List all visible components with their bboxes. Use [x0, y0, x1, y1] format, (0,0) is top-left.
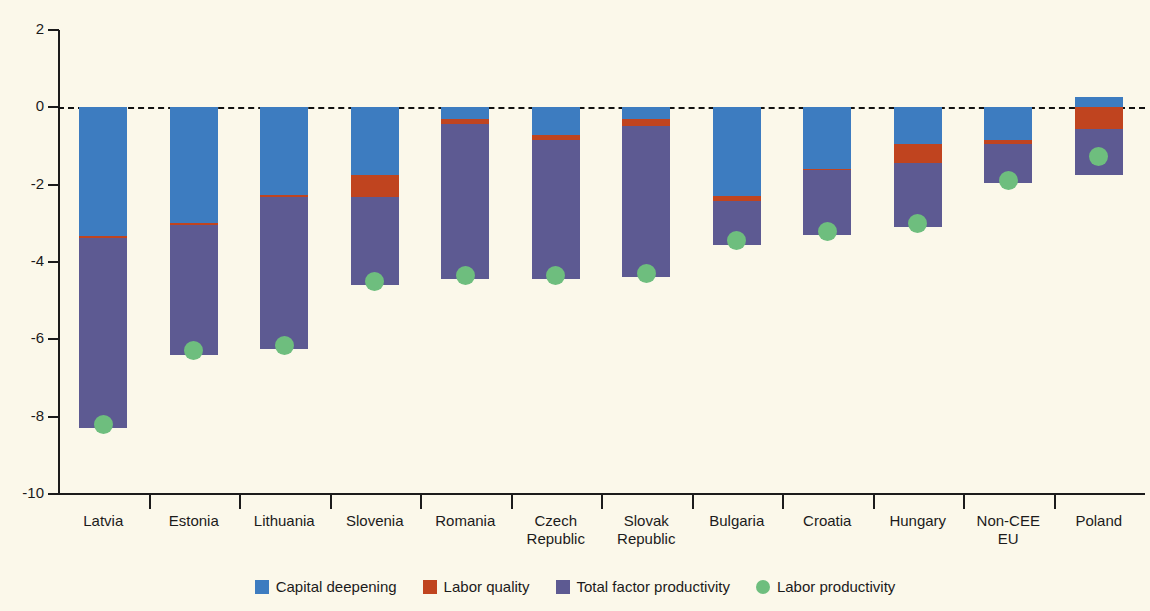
x-axis-label-croatia: Croatia	[782, 512, 873, 530]
bar-segment-labor-quality	[622, 119, 670, 127]
chart-container: 20-2-4-6-8-10 LatviaEstoniaLithuaniaSlov…	[0, 0, 1150, 611]
bar-group[interactable]	[441, 30, 489, 494]
bar-segment-capital-deepening	[532, 107, 580, 135]
legend-swatch-square	[556, 580, 570, 594]
legend-label: Labor productivity	[777, 578, 895, 595]
x-axis-tick	[782, 495, 784, 509]
bar-segment-total-factor-productivity	[79, 238, 127, 427]
labor-productivity-marker	[908, 214, 927, 233]
labor-productivity-marker	[546, 266, 565, 285]
bar-segment-capital-deepening	[1075, 97, 1123, 108]
y-axis-tick-label: -4	[0, 252, 44, 269]
x-axis-tick	[239, 495, 241, 509]
bar-segment-capital-deepening	[79, 107, 127, 236]
bar-segment-capital-deepening	[803, 107, 851, 169]
x-axis-label-lithuania: Lithuania	[239, 512, 330, 530]
x-axis-tick	[149, 495, 151, 509]
labor-productivity-marker	[727, 231, 746, 250]
x-axis-label-hungary: Hungary	[873, 512, 964, 530]
y-axis-tick-label: -10	[0, 484, 44, 501]
y-axis-tick-label: -8	[0, 407, 44, 424]
bar-segment-capital-deepening	[713, 107, 761, 196]
bar-segment-total-factor-productivity	[170, 225, 218, 355]
x-axis-tick	[963, 495, 965, 509]
x-axis-tick	[601, 495, 603, 509]
legend-swatch-circle	[756, 580, 770, 594]
labor-productivity-marker	[999, 171, 1018, 190]
bar-segment-capital-deepening	[351, 107, 399, 174]
x-axis-label-poland: Poland	[1054, 512, 1145, 530]
y-axis-tick-label: 2	[0, 20, 44, 37]
labor-productivity-marker	[456, 266, 475, 285]
x-axis-label-non-cee: Non-CEE EU	[963, 512, 1054, 548]
x-axis-label-bulgaria: Bulgaria	[692, 512, 783, 530]
legend-swatch-square	[255, 580, 269, 594]
x-axis-label-slovenia: Slovenia	[330, 512, 421, 530]
bar-segment-capital-deepening	[260, 107, 308, 195]
legend-label: Capital deepening	[276, 578, 397, 595]
bar-segment-labor-quality	[351, 175, 399, 198]
x-axis-label-latvia: Latvia	[58, 512, 149, 530]
bar-segment-total-factor-productivity	[260, 197, 308, 349]
bar-group[interactable]	[351, 30, 399, 494]
legend-item[interactable]: Labor quality	[423, 578, 530, 595]
legend-item[interactable]: Capital deepening	[255, 578, 397, 595]
labor-productivity-marker	[637, 264, 656, 283]
bar-group[interactable]	[713, 30, 761, 494]
bar-group[interactable]	[260, 30, 308, 494]
bar-segment-capital-deepening	[984, 107, 1032, 140]
bar-segment-labor-quality	[1075, 107, 1123, 129]
labor-productivity-marker	[818, 222, 837, 241]
bar-segment-total-factor-productivity	[441, 124, 489, 280]
x-axis-tick	[420, 495, 422, 509]
bar-group[interactable]	[79, 30, 127, 494]
legend-item[interactable]: Total factor productivity	[556, 578, 730, 595]
labor-productivity-marker	[365, 272, 384, 291]
bar-group[interactable]	[1075, 30, 1123, 494]
bar-group[interactable]	[170, 30, 218, 494]
bar-segment-capital-deepening	[622, 107, 670, 118]
legend-label: Total factor productivity	[577, 578, 730, 595]
bar-group[interactable]	[984, 30, 1032, 494]
x-axis-tick	[692, 495, 694, 509]
legend-swatch-square	[423, 580, 437, 594]
y-axis-tick-label: -6	[0, 329, 44, 346]
y-axis-tick-label: -2	[0, 175, 44, 192]
chart-legend: Capital deepeningLabor qualityTotal fact…	[0, 578, 1150, 595]
x-axis-tick	[511, 495, 513, 509]
labor-productivity-marker	[94, 415, 113, 434]
plot-area	[58, 30, 1144, 494]
legend-label: Labor quality	[444, 578, 530, 595]
bar-segment-capital-deepening	[441, 107, 489, 118]
labor-productivity-marker	[184, 341, 203, 360]
x-axis-label-estonia: Estonia	[149, 512, 240, 530]
bar-group[interactable]	[894, 30, 942, 494]
labor-productivity-marker	[275, 336, 294, 355]
bar-segment-capital-deepening	[894, 107, 942, 144]
bar-group[interactable]	[532, 30, 580, 494]
bar-group[interactable]	[803, 30, 851, 494]
x-axis-label-romania: Romania	[420, 512, 511, 530]
x-axis-tick	[873, 495, 875, 509]
x-axis-label-slovak: Slovak Republic	[601, 512, 692, 548]
bar-segment-total-factor-productivity	[532, 140, 580, 279]
bar-group[interactable]	[622, 30, 670, 494]
x-axis-label-czech: Czech Republic	[511, 512, 602, 548]
bar-segment-labor-quality	[894, 144, 942, 163]
bar-segment-capital-deepening	[170, 107, 218, 223]
legend-item[interactable]: Labor productivity	[756, 578, 895, 595]
x-axis-tick	[330, 495, 332, 509]
bar-segment-total-factor-productivity	[622, 126, 670, 277]
y-axis-tick-label: 0	[0, 97, 44, 114]
x-axis-tick	[1054, 495, 1056, 509]
